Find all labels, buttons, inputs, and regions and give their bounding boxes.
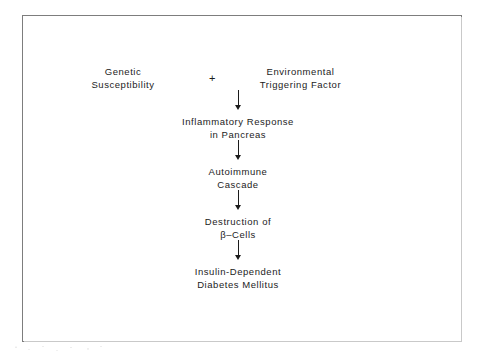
flowchart-diagram: Genetic Susceptibility + Environmental T…: [23, 16, 463, 343]
node-environmental-triggering-factor-line2: Triggering Factor: [233, 79, 368, 92]
node-insulin-dependent-diabetes-mellitus-line2: Diabetes Mellitus: [158, 279, 318, 292]
down-arrow-icon-2: [234, 140, 243, 160]
node-genetic-susceptibility: Genetic Susceptibility: [68, 66, 178, 91]
node-environmental-triggering-factor: Environmental Triggering Factor: [233, 66, 368, 91]
node-destruction-of-beta-cells-line1: Destruction of: [205, 216, 271, 227]
figure-frame: Genetic Susceptibility + Environmental T…: [22, 15, 462, 342]
scan-noise-artifact: [10, 344, 110, 353]
plus-operator: +: [209, 73, 215, 84]
node-inflammatory-response-line1: Inflammatory Response: [182, 116, 294, 127]
node-autoimmune-cascade-line1: Autoimmune: [209, 166, 268, 177]
node-autoimmune-cascade: Autoimmune Cascade: [173, 166, 303, 191]
node-genetic-susceptibility-line2: Susceptibility: [68, 79, 178, 92]
node-inflammatory-response: Inflammatory Response in Pancreas: [153, 116, 323, 141]
node-insulin-dependent-diabetes-mellitus-line1: Insulin-Dependent: [195, 266, 281, 277]
node-insulin-dependent-diabetes-mellitus: Insulin-Dependent Diabetes Mellitus: [158, 266, 318, 291]
down-arrow-icon-1: [234, 90, 243, 110]
down-arrow-icon-3: [234, 190, 243, 210]
node-genetic-susceptibility-line1: Genetic: [105, 66, 142, 77]
node-environmental-triggering-factor-line1: Environmental: [267, 66, 335, 77]
down-arrow-icon-4: [234, 240, 243, 260]
node-destruction-of-beta-cells: Destruction of β–Cells: [173, 216, 303, 241]
